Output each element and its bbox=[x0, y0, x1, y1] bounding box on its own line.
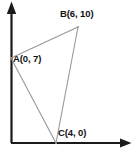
vertex-marker-a bbox=[10, 57, 12, 59]
x-axis-arrowhead bbox=[120, 139, 132, 148]
vertex-label-b: B(6, 10) bbox=[60, 9, 94, 19]
vertex-label-a: A(0, 7) bbox=[13, 54, 41, 64]
vertex-marker-c bbox=[55, 142, 57, 144]
vertex-marker-b bbox=[77, 26, 79, 28]
coordinate-triangle-figure: A(0, 7) B(6, 10) C(4, 0) bbox=[0, 0, 138, 154]
triangle-abc bbox=[11, 27, 78, 143]
triangle-outline bbox=[11, 27, 78, 143]
y-axis-arrowhead bbox=[7, 2, 16, 15]
vertex-label-c: C(4, 0) bbox=[58, 128, 86, 138]
